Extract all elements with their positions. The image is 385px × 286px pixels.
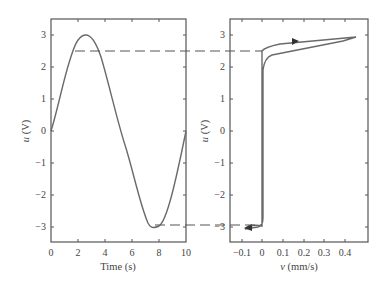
- x-tick-label: 8: [157, 247, 162, 258]
- x-tick-label: −0.1: [233, 247, 251, 258]
- figure: 0 2 4 6 8 10 3 2 1 0 −1 −2 −3 Time (s) u…: [0, 0, 385, 286]
- y-tick-label: −1: [35, 157, 46, 168]
- y-tick-label: 0: [41, 125, 46, 136]
- left-panel: 0 2 4 6 8 10 3 2 1 0 −1 −2 −3 Time (s) u…: [20, 19, 191, 273]
- x-tick-label: 0.3: [318, 247, 331, 258]
- right-y-axis-label: u (V): [199, 119, 211, 142]
- y-tick-label: −1: [214, 157, 225, 168]
- left-x-ticks: [78, 19, 159, 242]
- y-tick-label: 2: [41, 61, 46, 72]
- right-plot-frame: [230, 19, 368, 242]
- arrow-right-icon: [292, 38, 299, 45]
- right-y-tick-labels: 3 2 1 0 −1 −2 −3: [214, 29, 225, 232]
- right-x-axis-label: v (mm/s): [280, 261, 318, 273]
- left-plot-frame: [51, 19, 186, 242]
- right-x-tick-labels: −0.1 0 0.1 0.2 0.3 0.4: [233, 247, 351, 258]
- sine-wave-curve: [51, 35, 186, 228]
- x-tick-label: 0.4: [339, 247, 352, 258]
- y-tick-label: 1: [41, 93, 46, 104]
- y-tick-label: 1: [220, 93, 225, 104]
- right-x-ticks: [242, 19, 345, 242]
- right-panel: −0.1 0 0.1 0.2 0.3 0.4 3 2 1 0 −1 −2 −3 …: [199, 19, 368, 273]
- x-tick-label: 4: [103, 247, 108, 258]
- y-tick-label: −3: [214, 221, 225, 232]
- y-tick-label: −3: [35, 221, 46, 232]
- y-tick-label: −2: [35, 189, 46, 200]
- hysteresis-loop-curve: [245, 37, 356, 229]
- y-tick-label: −2: [214, 189, 225, 200]
- left-y-axis-label: u (V): [20, 119, 32, 142]
- left-y-tick-labels: 3 2 1 0 −1 −2 −3: [35, 29, 46, 232]
- x-tick-label: 0: [49, 247, 54, 258]
- y-tick-label: 2: [220, 61, 225, 72]
- left-x-axis-label: Time (s): [100, 261, 136, 273]
- right-y-ticks: [230, 35, 368, 227]
- x-tick-label: 2: [76, 247, 81, 258]
- y-tick-label: 3: [220, 29, 225, 40]
- left-x-tick-labels: 0 2 4 6 8 10: [49, 247, 192, 258]
- left-y-ticks: [51, 35, 186, 227]
- y-tick-label: 3: [41, 29, 46, 40]
- x-tick-label: 6: [130, 247, 135, 258]
- y-tick-label: 0: [220, 125, 225, 136]
- x-tick-label: 0: [260, 247, 265, 258]
- x-tick-label: 10: [181, 247, 191, 258]
- x-tick-label: 0.2: [298, 247, 311, 258]
- x-tick-label: 0.1: [277, 247, 290, 258]
